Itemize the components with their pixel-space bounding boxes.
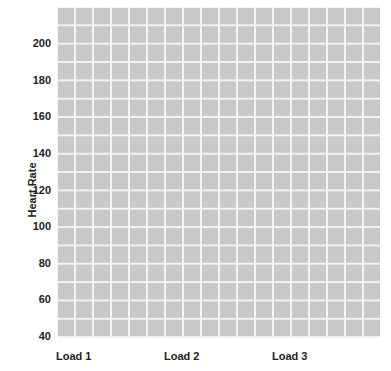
y-tick-40: 40 <box>39 330 51 342</box>
y-tick-120: 120 <box>33 184 51 196</box>
y-tick-80: 80 <box>39 257 51 269</box>
y-tick-200: 200 <box>33 37 51 49</box>
x-tick-load-2: Load 2 <box>164 350 199 362</box>
y-tick-60: 60 <box>39 293 51 305</box>
y-tick-160: 160 <box>33 110 51 122</box>
x-tick-load-3: Load 3 <box>272 350 307 362</box>
y-tick-140: 140 <box>33 147 51 159</box>
x-tick-load-1: Load 1 <box>56 350 91 362</box>
plot-area <box>57 7 380 338</box>
y-tick-180: 180 <box>33 74 51 86</box>
y-tick-100: 100 <box>33 220 51 232</box>
